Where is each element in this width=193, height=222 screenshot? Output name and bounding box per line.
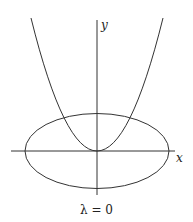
plot-svg [0,0,193,222]
diagram-canvas: y x λ = 0 [0,0,193,222]
y-axis-label: y [101,19,108,31]
figure-caption: λ = 0 [0,204,193,216]
x-axis-label: x [176,152,183,164]
